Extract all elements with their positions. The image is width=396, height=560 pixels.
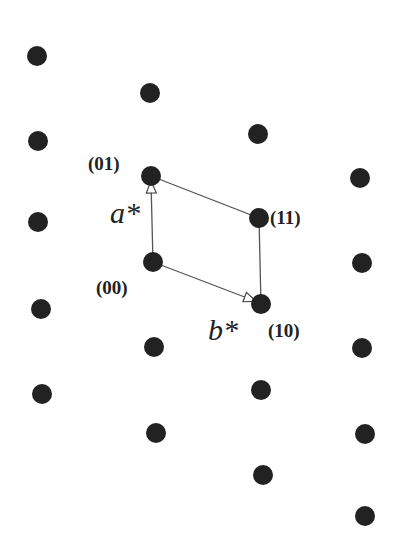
a-star-vector xyxy=(151,182,153,262)
lattice-point xyxy=(352,338,372,358)
lattice-point xyxy=(253,465,273,485)
label-b-star: b* xyxy=(208,313,238,346)
lattice-point xyxy=(144,337,164,357)
label-11: (11) xyxy=(270,207,301,229)
reciprocal-lattice-diagram: (01) (11) (00) (10) a* b* xyxy=(0,0,396,560)
lattice-point xyxy=(27,46,47,66)
unit-cell xyxy=(151,176,261,304)
b-star-vector xyxy=(153,262,255,301)
lattice-point xyxy=(28,131,48,151)
lattice-point xyxy=(32,384,52,404)
edge-11-10 xyxy=(259,218,261,304)
lattice-point xyxy=(249,208,269,228)
lattice-points xyxy=(27,46,375,526)
lattice-point xyxy=(31,299,51,319)
lattice-point xyxy=(141,166,161,186)
lattice-point xyxy=(355,506,375,526)
lattice-point xyxy=(146,423,166,443)
edge-01-11 xyxy=(151,176,259,218)
lattice-point xyxy=(28,212,48,232)
lattice-point xyxy=(355,424,375,444)
lattice-point xyxy=(140,83,160,103)
lattice-point xyxy=(143,252,163,272)
label-a-star: a* xyxy=(110,196,140,229)
lattice-point xyxy=(248,124,268,144)
label-10: (10) xyxy=(268,320,300,342)
label-01: (01) xyxy=(88,153,120,175)
lattice-point xyxy=(352,253,372,273)
lattice-point xyxy=(251,294,271,314)
lattice-point xyxy=(251,380,271,400)
lattice-point xyxy=(350,168,370,188)
label-00: (00) xyxy=(96,277,128,299)
